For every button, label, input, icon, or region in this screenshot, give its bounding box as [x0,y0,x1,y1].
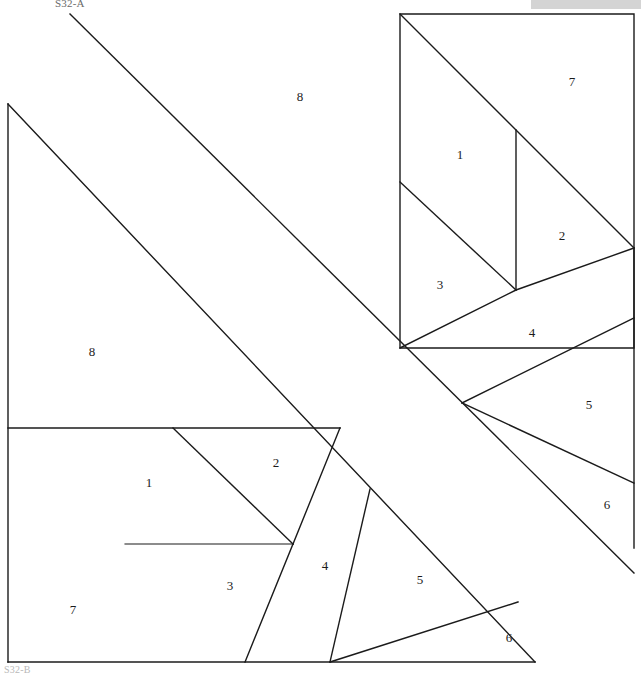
piece-label-ll-7: 7 [70,602,77,617]
piece-label-ll-8: 8 [89,344,96,359]
lower-block-labels: 1 2 3 4 5 6 7 8 [70,344,513,645]
piece-label-ur-3: 3 [437,277,444,292]
piece-label-ll-1: 1 [146,475,153,490]
fan-hub-to-piece4 [462,318,634,403]
lower-block-piece5-piece6-divider [330,602,518,662]
central-diagonal-band [70,14,634,573]
piece-label-ur-5: 5 [586,397,593,412]
piece-label-ll-6: 6 [506,630,513,645]
piece-label-ll-5: 5 [417,572,424,587]
lower-block-piece2-diagonal [173,428,293,544]
upper-block-labels: 1 2 3 4 5 6 7 8 [297,74,611,512]
pattern-sheet: S32-A S32-B [0,0,641,675]
lower-block-piece4-left [293,428,340,544]
upper-block-main-diagonal [400,14,634,248]
upper-block-piece3-diagonal [400,182,516,290]
lower-block-main-diagonal [8,104,535,662]
piece-label-ll-4: 4 [322,558,329,573]
piece-label-ur-1: 1 [457,147,464,162]
pattern-drawing: 1 2 3 4 5 6 7 8 1 2 3 4 5 6 7 8 [0,0,641,675]
piece-label-ll-3: 3 [227,578,234,593]
fan-hub-to-piece6 [462,403,634,483]
upper-block-piece4-top [400,248,634,348]
upper-right-block [400,14,634,348]
lower-block-piece4-right [330,489,370,662]
piece-label-ll-2: 2 [273,455,280,470]
piece-label-ur-6: 6 [604,497,611,512]
lower-block-piece4-left-lower [245,544,293,662]
piece-label-ur-7: 7 [569,74,576,89]
lower-left-block [8,104,535,662]
band-upper-edge [70,14,634,573]
piece-label-ur-2: 2 [559,228,566,243]
upper-block-outline [400,14,634,348]
piece-label-ur-8: 8 [297,89,304,104]
piece-label-ur-4: 4 [529,325,536,340]
